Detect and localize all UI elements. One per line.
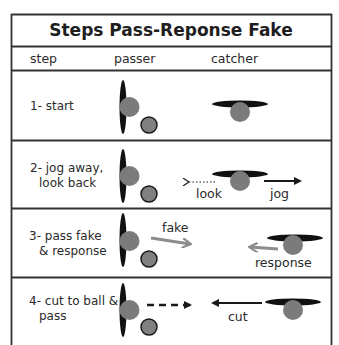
passer-head-icon xyxy=(120,97,140,117)
passer-figure xyxy=(120,80,158,134)
pass-response-fake-diagram: Steps Pass-Reponse Fake step passer catc… xyxy=(0,0,339,345)
catcher-figure xyxy=(267,235,323,256)
passer-figure xyxy=(120,283,158,337)
fake-label: fake xyxy=(162,220,189,235)
response-arrow xyxy=(250,247,278,249)
cut-label: cut xyxy=(228,309,248,324)
row-1: 1- start xyxy=(30,80,268,134)
catcher-head-icon xyxy=(230,171,250,191)
column-header-step: step xyxy=(30,51,57,66)
row-4: 4- cut to ball & pass cut xyxy=(29,283,321,337)
response-label: response xyxy=(255,255,312,270)
step-label-line-1: 4- cut to ball & xyxy=(29,294,118,308)
column-header-catcher: catcher xyxy=(211,51,259,66)
step-label-line-1: 3- pass fake xyxy=(29,229,102,243)
catcher-head-icon xyxy=(283,300,303,320)
column-header-passer: passer xyxy=(114,51,156,66)
step-label-line-2: pass xyxy=(39,309,66,323)
passer-head-icon xyxy=(120,166,140,186)
disc-icon xyxy=(141,319,157,335)
step-label-line-2: & response xyxy=(39,244,107,258)
step-label-line-1: 2- jog away, xyxy=(30,161,103,175)
catcher-head-icon xyxy=(283,235,303,255)
disc-icon xyxy=(141,251,157,267)
row-3: 3- pass fake & response fake response xyxy=(29,213,323,270)
row-2: 2- jog away, look back look jog xyxy=(30,149,300,203)
passer-figure xyxy=(120,149,158,203)
disc-icon xyxy=(141,186,157,202)
step-label: 1- start xyxy=(30,99,74,113)
passer-head-icon xyxy=(120,231,140,251)
look-label: look xyxy=(196,186,223,201)
catcher-figure xyxy=(265,299,321,321)
catcher-figure xyxy=(212,101,268,123)
passer-head-icon xyxy=(120,300,140,320)
jog-label: jog xyxy=(269,186,289,201)
catcher-head-icon xyxy=(230,102,250,122)
passer-figure xyxy=(120,213,158,267)
fake-arrow xyxy=(151,238,190,244)
disc-icon xyxy=(141,117,157,133)
step-label-line-2: look back xyxy=(39,176,96,190)
diagram-title: Steps Pass-Reponse Fake xyxy=(49,20,292,40)
